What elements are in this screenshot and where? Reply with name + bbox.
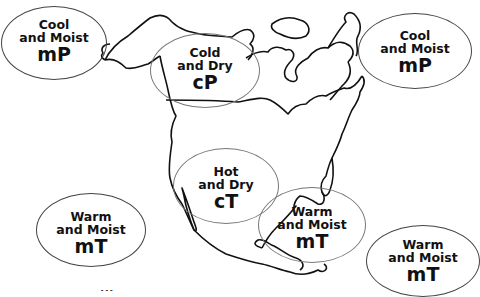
air-mass-label-ct-southwest: Hot and Dry cT	[186, 165, 266, 212]
air-mass-code: mT	[381, 265, 465, 285]
air-mass-code: mT	[49, 237, 133, 257]
air-mass-label-mp-pacific: Cool and Moist mP	[14, 18, 94, 65]
air-mass-label-mt-pacific: Warm and Moist mT	[49, 210, 133, 257]
air-mass-code: cT	[186, 192, 266, 212]
air-mass-code: mP	[14, 45, 94, 65]
air-mass-code: mT	[270, 232, 354, 252]
air-mass-label-mt-gulf: Warm and Moist mT	[270, 205, 354, 252]
air-mass-label-mp-atlantic: Cool and Moist mP	[373, 29, 457, 76]
air-mass-label-cp-canada: Cold and Dry cP	[165, 46, 245, 93]
air-mass-code: cP	[165, 73, 245, 93]
air-mass-label-mt-atlantic: Warm and Moist mT	[381, 238, 465, 285]
map-caption-truncated: ...	[100, 282, 300, 291]
air-mass-code: mP	[373, 56, 457, 76]
